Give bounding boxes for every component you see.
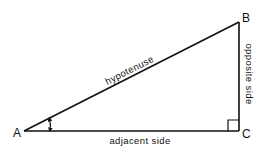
- hypotenuse-label: hypotenuse: [103, 53, 155, 87]
- angle-arc-marker: [50, 119, 51, 130]
- adjacent-side-label: adjacent side: [109, 135, 170, 146]
- vertex-label-a: A: [13, 126, 21, 140]
- opposite-side-label: opposite side: [244, 43, 255, 104]
- vertex-label-b: B: [242, 11, 250, 25]
- hypotenuse-line: [24, 22, 239, 131]
- vertex-label-c: C: [242, 127, 251, 141]
- right-angle-marker: [228, 120, 239, 131]
- right-triangle-diagram: A B C hypotenuse adjacent side opposite …: [0, 0, 264, 153]
